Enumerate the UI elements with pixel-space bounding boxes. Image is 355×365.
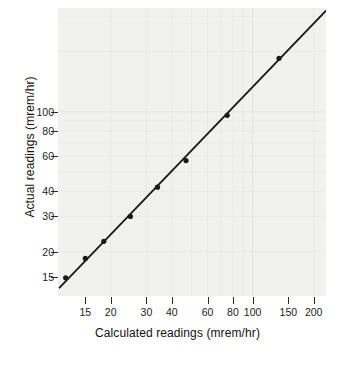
plot-area <box>58 8 326 296</box>
x-tick-mark <box>208 297 209 304</box>
y-tick-label: 20 <box>42 247 54 257</box>
y-tick-label: 100 <box>36 107 54 117</box>
x-tick-mark <box>172 297 173 304</box>
x-tick-mark <box>253 297 254 304</box>
data-point <box>155 185 160 190</box>
y-axis-title: Actual readings (mrem/hr) <box>23 32 37 262</box>
y-tick-label: 80 <box>42 126 54 136</box>
y-tick-label: 60 <box>42 151 54 161</box>
data-point <box>225 113 230 118</box>
x-tick-mark <box>288 297 289 304</box>
x-tick-label: 200 <box>299 307 329 318</box>
y-tick-label: 15 <box>42 272 54 282</box>
data-point <box>183 158 188 163</box>
calibration-scatter-figure: 152030406080100 152030406080100150200 Ca… <box>0 0 355 365</box>
y-tick-label: 30 <box>42 211 54 221</box>
data-point <box>276 56 281 61</box>
data-point <box>63 275 68 280</box>
x-tick-mark <box>233 297 234 304</box>
x-axis-title: Calculated readings (mrem/hr) <box>0 326 355 340</box>
data-layer <box>58 8 326 296</box>
data-point <box>83 256 88 261</box>
y-tick-label: 40 <box>42 186 54 196</box>
x-tick-mark <box>111 297 112 304</box>
x-tick-label: 100 <box>238 307 268 318</box>
data-point <box>101 239 106 244</box>
x-tick-mark <box>146 297 147 304</box>
x-tick-label: 20 <box>96 307 126 318</box>
x-tick-mark <box>314 297 315 304</box>
data-point <box>128 214 133 219</box>
x-tick-mark <box>85 297 86 304</box>
x-tick-label: 40 <box>157 307 187 318</box>
